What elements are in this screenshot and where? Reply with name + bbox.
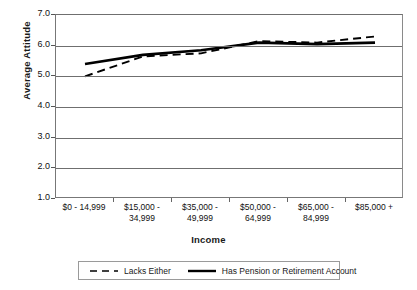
dashed-line-icon (89, 266, 119, 276)
solid-line-icon (187, 266, 217, 276)
x-axis-tick-label: $85,000 + (339, 202, 409, 213)
chart-legend: Lacks Either Has Pension or Retirement A… (78, 261, 340, 280)
gridline (56, 76, 402, 77)
y-axis-tick-label: 4.0 (22, 101, 50, 110)
y-axis-tick-label: 5.0 (22, 70, 50, 79)
y-axis-tick-label: 2.0 (22, 162, 50, 171)
legend-item-lacks-either: Lacks Either (89, 266, 171, 276)
gridline (56, 107, 402, 108)
legend-item-has-pension: Has Pension or Retirement Account (187, 266, 357, 276)
plot-area (55, 14, 403, 198)
gridline (56, 138, 402, 139)
x-axis-title: Income (0, 234, 417, 245)
y-axis-tick-mark (51, 198, 55, 199)
legend-label-has-pension: Has Pension or Retirement Account (222, 266, 357, 276)
y-axis-tick-label: 1.0 (22, 193, 50, 202)
y-axis-tick-labels: 7.06.05.04.03.02.01.0 (22, 0, 50, 290)
y-axis-tick-label: 6.0 (22, 40, 50, 49)
line-chart: Average Attitude 7.06.05.04.03.02.01.0 $… (0, 0, 417, 290)
legend-label-lacks-either: Lacks Either (124, 266, 171, 276)
y-axis-tick-label: 7.0 (22, 9, 50, 18)
gridline (56, 46, 402, 47)
gridline (56, 168, 402, 169)
y-axis-tick-label: 3.0 (22, 132, 50, 141)
